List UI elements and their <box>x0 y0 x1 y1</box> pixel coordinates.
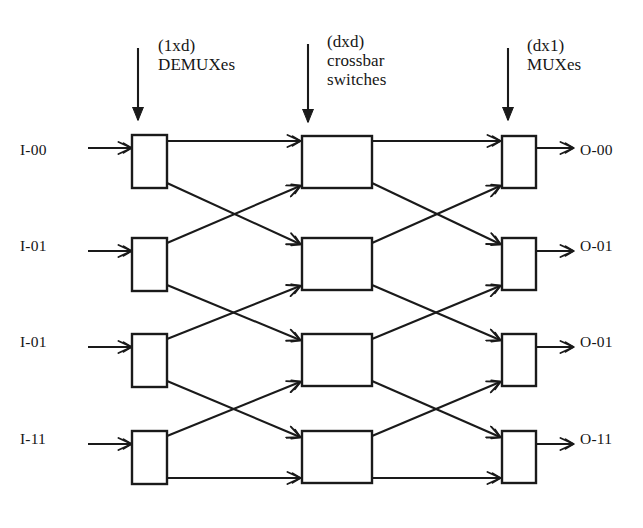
crossbar-box-3[interactable] <box>302 431 372 483</box>
output-port-label-2: O-01 <box>580 333 613 351</box>
crossbar-box-2[interactable] <box>302 334 372 386</box>
demux-box-2[interactable] <box>132 334 167 387</box>
stage-heading-crossbar-line-3: switches <box>327 70 386 89</box>
output-port-label-3: O-11 <box>580 430 612 448</box>
stage-heading-crossbar-line-2: crossbar <box>327 51 386 70</box>
stage-heading-mux: (dx1)MUXes <box>527 36 581 74</box>
diagram-canvas <box>0 0 643 528</box>
stage-heading-demux-line-1: (1xd) <box>158 36 235 55</box>
mux-box-1[interactable] <box>502 238 536 290</box>
input-port-label-3: I-11 <box>20 430 46 448</box>
mux-box-0[interactable] <box>502 136 536 188</box>
crossbar-box-1[interactable] <box>302 238 372 290</box>
input-port-label-2: I-01 <box>20 333 47 351</box>
output-port-label-1: O-01 <box>580 237 613 255</box>
stage-heading-demux-line-2: DEMUXes <box>158 55 235 74</box>
mux-box-3[interactable] <box>502 431 536 483</box>
input-port-label-1: I-01 <box>20 237 47 255</box>
network-diagram: (1xd)DEMUXes(dxd)crossbarswitches(dx1)MU… <box>0 0 643 528</box>
stage-heading-mux-line-2: MUXes <box>527 55 581 74</box>
demux-box-1[interactable] <box>132 238 167 291</box>
crossbar-box-0[interactable] <box>302 136 372 188</box>
stage-heading-crossbar-line-1: (dxd) <box>327 32 386 51</box>
stage-heading-demux: (1xd)DEMUXes <box>158 36 235 74</box>
mux-box-2[interactable] <box>502 334 536 386</box>
demux-box-3[interactable] <box>132 431 167 484</box>
switch-boxes <box>132 135 536 484</box>
crossbar-to-mux-links <box>372 141 500 478</box>
demux-box-0[interactable] <box>132 135 167 188</box>
demux-to-crossbar-links <box>167 141 300 478</box>
stage-heading-mux-line-1: (dx1) <box>527 36 581 55</box>
stage-heading-crossbar: (dxd)crossbarswitches <box>327 32 386 89</box>
io-arrows <box>88 148 573 444</box>
input-port-label-0: I-00 <box>20 141 47 159</box>
output-port-label-0: O-00 <box>580 141 613 159</box>
